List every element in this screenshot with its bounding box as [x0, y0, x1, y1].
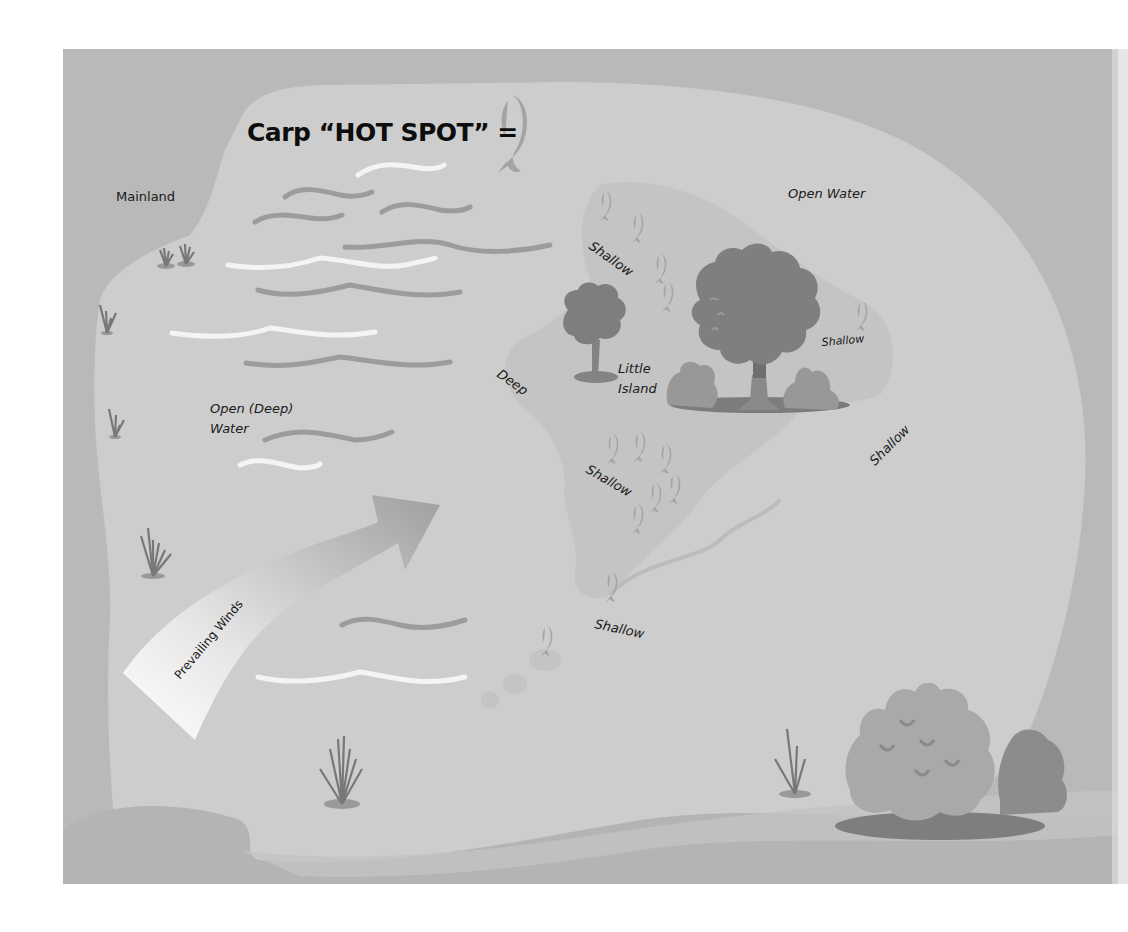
islet [503, 674, 527, 694]
label-little-island: Little [618, 361, 651, 376]
label-open-deep-water-2: Water [210, 421, 250, 436]
map-title: Carp “HOT SPOT” = [247, 118, 518, 147]
label-little-island-2: Island [618, 381, 657, 396]
carp-hotspot-map: Carp “HOT SPOT” = Mainland Open Water Op… [0, 0, 1128, 932]
label-mainland: Mainland [116, 189, 175, 204]
islet [481, 691, 499, 709]
page-edge-shadow [1112, 49, 1128, 884]
label-open-deep-water: Open (Deep) [210, 401, 293, 416]
label-open-water: Open Water [788, 186, 867, 201]
